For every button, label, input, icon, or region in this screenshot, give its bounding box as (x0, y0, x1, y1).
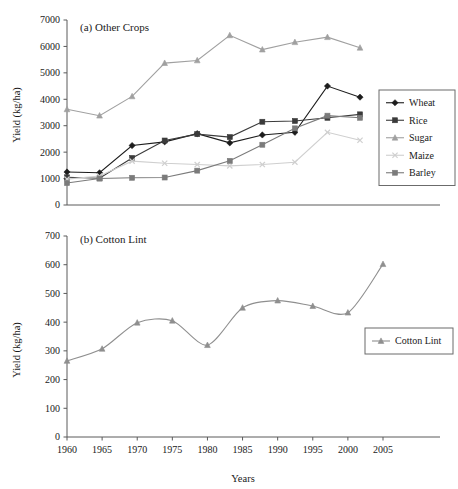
legend-marker-icon (393, 170, 398, 175)
y-tick-label: 0 (55, 199, 60, 210)
panel-a-legend[interactable]: WheatRiceSugarMaizeBarley (379, 90, 455, 186)
x-tick-label: 1975 (162, 444, 182, 455)
x-tick-label: 2005 (373, 444, 393, 455)
data-point-marker (162, 175, 167, 180)
x-tick-label: 1995 (303, 444, 323, 455)
panel-b-title: (b) Cotton Lint (80, 233, 147, 246)
y-tick-label: 400 (45, 317, 60, 328)
y-tick-label: 600 (45, 259, 60, 270)
legend-label: Cotton Lint (395, 335, 442, 346)
y-tick-label: 1000 (40, 173, 60, 184)
y-tick-label: 500 (45, 288, 60, 299)
panel-b-y-axis-title: Yield (kg/ha) (11, 322, 23, 378)
y-tick-label: 6000 (40, 41, 60, 52)
data-point-marker (358, 115, 363, 120)
data-point-marker (292, 126, 297, 131)
legend-marker-icon (393, 118, 398, 123)
data-point-marker (65, 181, 70, 186)
data-point-marker (325, 113, 330, 118)
legend-label: Maize (409, 150, 435, 161)
x-tick-label: 2000 (338, 444, 358, 455)
y-tick-label: 100 (45, 403, 60, 414)
figure-container: Yield (kg/ha) (a) Other Crops 0100020003… (0, 0, 458, 489)
x-tick-label: 1960 (57, 444, 77, 455)
y-tick-label: 7000 (40, 14, 60, 25)
figure-background (0, 0, 458, 489)
data-point-marker (260, 119, 265, 124)
panel-b-legend[interactable]: Cotton Lint (365, 328, 453, 354)
legend-label: Wheat (409, 97, 435, 108)
panel-b-x-axis-title: Years (231, 473, 254, 484)
data-point-marker (97, 176, 102, 181)
data-point-marker (292, 118, 297, 123)
x-tick-label: 1980 (197, 444, 217, 455)
y-tick-label: 700 (45, 230, 60, 241)
legend-label: Rice (409, 115, 428, 126)
data-point-marker (130, 175, 135, 180)
data-point-marker (162, 138, 167, 143)
chart-canvas: Yield (kg/ha) (a) Other Crops 0100020003… (0, 0, 458, 489)
y-tick-label: 2000 (40, 147, 60, 158)
data-point-marker (195, 168, 200, 173)
x-tick-label: 1970 (127, 444, 147, 455)
data-point-marker (227, 158, 232, 163)
data-point-marker (227, 135, 232, 140)
legend-label: Barley (409, 167, 436, 178)
y-tick-label: 200 (45, 374, 60, 385)
y-tick-label: 4000 (40, 94, 60, 105)
data-point-marker (260, 142, 265, 147)
y-tick-label: 3000 (40, 120, 60, 131)
y-tick-label: 0 (55, 431, 60, 442)
legend-label: Sugar (409, 132, 433, 143)
panel-a-title: (a) Other Crops (80, 21, 149, 34)
panel-a-y-axis-title: Yield (kg/ha) (11, 87, 23, 143)
x-tick-label: 1965 (92, 444, 112, 455)
x-tick-label: 1985 (233, 444, 253, 455)
x-tick-label: 1990 (268, 444, 288, 455)
data-point-marker (195, 132, 200, 137)
y-tick-label: 5000 (40, 67, 60, 78)
y-tick-label: 300 (45, 345, 60, 356)
